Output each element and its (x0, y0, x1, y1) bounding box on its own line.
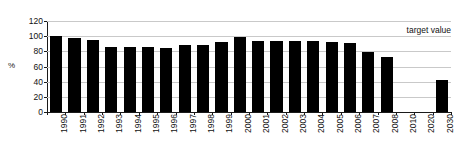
y-tick-mark (44, 21, 47, 22)
x-tick-label: 2030 (446, 114, 455, 133)
bar-chart: % 120100806040200 1990199119921993199419… (0, 0, 458, 149)
y-tick-label: 20 (19, 92, 43, 101)
x-tick-label: 2004 (317, 114, 326, 133)
bar (362, 52, 374, 112)
gridline (47, 36, 451, 37)
bar (105, 47, 117, 112)
bar (142, 47, 154, 112)
x-tick-label: 2001 (262, 114, 271, 133)
y-tick-label: 120 (19, 17, 43, 26)
bar (381, 57, 393, 112)
x-tick-label: 2005 (336, 114, 345, 133)
y-axis-tick-labels: 120100806040200 (19, 0, 43, 149)
y-tick-label: 60 (19, 62, 43, 71)
x-tick-label: 1991 (79, 114, 88, 133)
bar (68, 38, 80, 112)
y-tick-label: 0 (19, 108, 43, 117)
x-tick-label: 2000 (244, 114, 253, 133)
bar (307, 41, 319, 112)
bar (215, 42, 227, 112)
y-tick-mark (44, 82, 47, 83)
y-tick-label: 40 (19, 77, 43, 86)
x-tick-label: 1997 (189, 114, 198, 133)
x-tick-label: 1992 (97, 114, 106, 133)
bar (344, 43, 356, 112)
bar (179, 45, 191, 112)
bar (124, 47, 136, 112)
x-tick-label: 1999 (225, 114, 234, 133)
x-tick-label: 1996 (170, 114, 179, 133)
x-tick-label: 1990 (60, 114, 69, 133)
target-value-label: target value (407, 25, 451, 35)
y-axis-title: % (8, 61, 15, 71)
bar (160, 48, 172, 112)
y-tick-label: 80 (19, 47, 43, 56)
bar (234, 37, 246, 112)
y-tick-mark (44, 97, 47, 98)
bar (326, 42, 338, 112)
x-tick-label: 2010 (409, 114, 418, 133)
x-tick-label: 2003 (299, 114, 308, 133)
bar (289, 41, 301, 112)
x-tick-label: 2006 (354, 114, 363, 133)
x-tick-label: 2002 (281, 114, 290, 133)
x-tick-label: 2008 (391, 114, 400, 133)
x-tick-label: 2020 (427, 114, 436, 133)
x-tick-label: 1994 (134, 114, 143, 133)
x-axis-tick-labels: 1990199119921993199419951996199719981999… (47, 112, 451, 149)
x-tick-label: 2007 (372, 114, 381, 133)
x-tick-label: 1993 (115, 114, 124, 133)
y-tick-label: 100 (19, 32, 43, 41)
bar (87, 40, 99, 112)
bar (270, 41, 282, 112)
plot-area (47, 21, 451, 112)
bar (252, 41, 264, 112)
x-tick-label: 1998 (207, 114, 216, 133)
gridline (47, 21, 451, 22)
bar (436, 80, 448, 112)
y-tick-mark (44, 67, 47, 68)
y-tick-mark (44, 51, 47, 52)
y-tick-mark (44, 36, 47, 37)
x-tick-label: 1995 (152, 114, 161, 133)
bar (197, 45, 209, 112)
bar (50, 36, 62, 112)
